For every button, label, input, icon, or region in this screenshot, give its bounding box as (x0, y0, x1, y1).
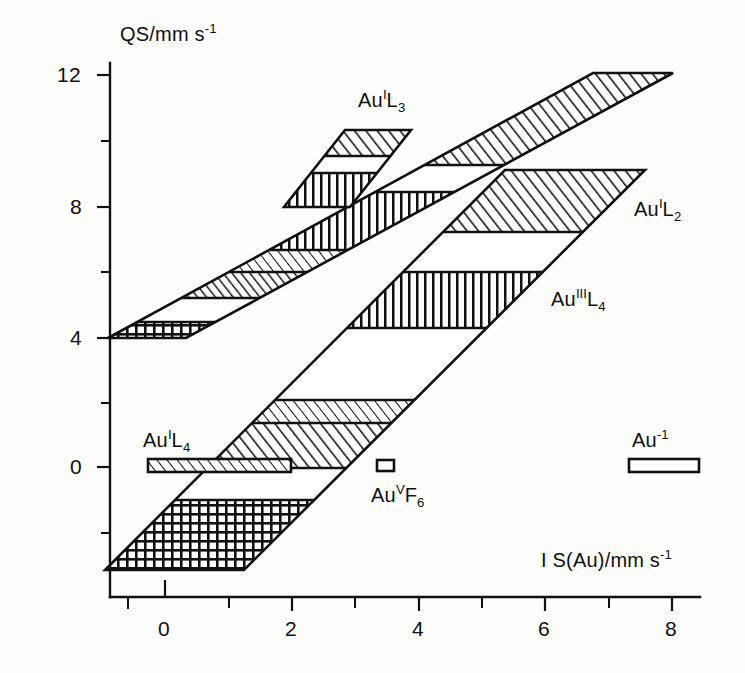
x-axis-title-text: I S(Au)/mm s (541, 549, 660, 571)
marker-au-minus1-bar (629, 459, 699, 472)
series-label-au-minus1: Au-1 (632, 428, 669, 450)
au5-f6-ligand: F (405, 484, 417, 506)
au5-f6-base: Au (371, 484, 396, 506)
au-minus1-base: Au (632, 429, 657, 451)
y-axis-title: QS/mm s-1 (120, 22, 216, 44)
au1-l2-base: Au (634, 198, 659, 220)
au1-l2-ligand: L (663, 198, 674, 220)
band-diagonal-thin (90, 250, 690, 272)
au1-l4-count: 4 (183, 440, 190, 455)
band-blank-3 (90, 232, 690, 272)
y-tick-label-4: 4 (70, 327, 82, 348)
series-label-au1-l3: AuIL3 (358, 88, 405, 114)
series-label-au5-f6: AuVF6 (371, 483, 424, 509)
x-tick-label-0: 0 (158, 618, 170, 639)
series-label-au1-l4: AuIL4 (143, 428, 190, 454)
au-minus1-oxidation: -1 (657, 427, 669, 442)
series-label-au1-l2: AuIL2 (634, 197, 681, 223)
y-tick-label-12: 12 (57, 64, 81, 85)
band-diagonal-thin (90, 400, 690, 423)
y-tick-label-8: 8 (70, 196, 82, 217)
x-tick-label-6: 6 (538, 618, 550, 639)
y-axis-title-text: QS/mm s (120, 23, 205, 45)
mossbauer-qs-is-figure: QS/mm s-1 I S(Au)/mm s-1 12 8 4 0 0 2 4 … (0, 0, 745, 673)
au5-f6-count: 6 (417, 495, 424, 510)
au1-l3-count: 3 (398, 100, 405, 115)
x-axis-title-exponent: -1 (660, 547, 672, 562)
x-axis-title: I S(Au)/mm s-1 (541, 548, 672, 570)
marker-au5-f6-box (377, 460, 394, 471)
x-tick-label-4: 4 (412, 618, 424, 639)
series-label-au3-l4: AuIIIL4 (551, 287, 606, 313)
au3-l4-base: Au (551, 288, 576, 310)
au3-l4-ligand: L (587, 288, 598, 310)
y-axis-title-exponent: -1 (205, 21, 217, 36)
au1-l4-ligand: L (172, 429, 183, 451)
region-au3-l4 (90, 168, 690, 572)
marker-au1-l4-bar (148, 459, 291, 472)
au1-l4-base: Au (143, 429, 168, 451)
x-axis-major-ticks (165, 580, 672, 611)
y-tick-label-0: 0 (70, 456, 82, 477)
x-tick-label-8: 8 (665, 618, 677, 639)
au5-f6-oxidation: V (396, 482, 405, 497)
marker-bar (148, 459, 291, 472)
au3-l4-count: 4 (598, 299, 605, 314)
x-axis-minor-ticks (128, 597, 609, 609)
au1-l3-ligand: L (387, 89, 398, 111)
au3-l4-oxidation: III (576, 286, 587, 301)
au1-l3-base: Au (358, 89, 383, 111)
band-blank (270, 156, 430, 173)
x-tick-label-2: 2 (285, 618, 297, 639)
au1-l2-count: 2 (674, 209, 681, 224)
